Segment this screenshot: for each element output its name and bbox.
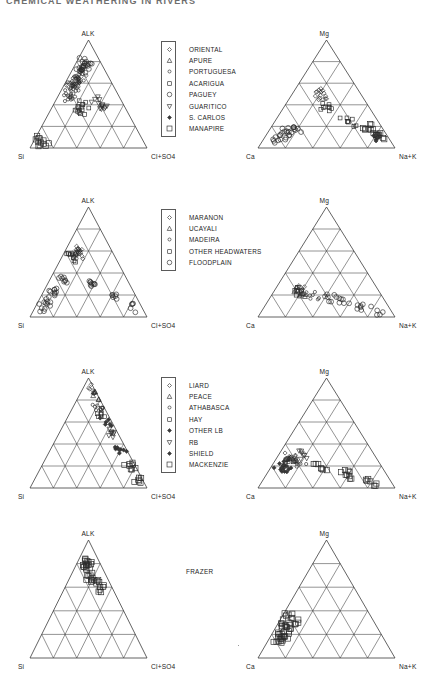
legend-item-label: FLOODPLAIN [189,259,232,266]
legend-item-label: APURE [189,57,212,64]
diamond-small-icon [161,213,178,222]
diamond-filled-icon [161,449,178,458]
figure-page: CHEMICAL WEATHERING IN RIVERS ALKSiCl+SO… [0,0,439,688]
ternary-plot-frazer-cation: MgCaNa+K [242,528,429,674]
apex-label-top: Mg [320,30,330,37]
apex-label-bottom-left: Si [18,153,24,160]
legend-item-label: PAGUEY [189,91,217,98]
legend-item[interactable]: PAGUEY [161,89,236,100]
circle-icon [161,90,178,99]
legend-label-frazer: FRAZER [186,568,213,575]
ternary-plot-orinoco-anion: ALKSiCl+SO4 [14,28,181,164]
apex-label-bottom-left: Ca [246,153,255,160]
legend-item-label: ATHABASCA [189,404,229,411]
diamond-filled-icon [161,426,178,435]
triangle-up-icon [161,224,178,233]
apex-label-bottom-left: Ca [246,663,255,670]
legend-item[interactable]: HAY [161,414,229,425]
legend-item[interactable]: ORIENTAL [161,44,236,55]
apex-label-bottom-right: Na+K [399,153,416,160]
legend-item[interactable]: OTHER HEADWATERS [161,246,262,257]
legend-item[interactable]: PORTUGUESA [161,66,236,77]
legend-item-label: MACKENZIE [189,461,229,468]
legend-item-label: RB [189,439,198,446]
legend-item[interactable]: MARANON [161,212,262,223]
legend-item[interactable]: UCAYALI [161,223,262,234]
ternary-grid [42,62,136,148]
diamond-small-icon [161,45,178,54]
legend-item-label: ORIENTAL [189,46,223,53]
ternary-grid [42,229,136,317]
ternary-outline [30,40,147,148]
legend-item[interactable]: MANAPIRE [161,123,236,134]
square-small-icon [161,247,178,256]
apex-label-bottom-left: Si [18,493,24,500]
apex-label-bottom-right: Na+K [399,322,416,329]
apex-label-top: Mg [320,530,330,537]
legend-item[interactable]: FLOODPLAIN [161,257,262,268]
apex-label-bottom-right: Cl+SO4 [151,663,175,670]
circle-small-icon [161,403,178,412]
apex-label-bottom-left: Si [18,663,24,670]
legend-item[interactable]: MADEIRA [161,234,262,245]
apex-label-top: ALK [82,368,95,375]
legend-item[interactable]: ACARIGUA [161,78,236,89]
legend-item[interactable]: PEACE [161,391,229,402]
legend-item[interactable]: ATHABASCA [161,402,229,413]
apex-label-bottom-right: Cl+SO4 [151,153,175,160]
legend-item-label: MANAPIRE [189,125,224,132]
legend-item-label: OTHER HEADWATERS [189,248,262,255]
apex-label-top: ALK [82,197,95,204]
apex-label-bottom-left: Ca [246,322,255,329]
legend-item[interactable]: GUARITICO [161,100,236,111]
legend-item[interactable]: SHIELD [161,448,229,459]
data-points [292,284,385,318]
legend-item-label: ACARIGUA [189,80,224,87]
square-icon [161,124,178,133]
apex-label-top: Mg [320,197,330,204]
scan-speck [238,645,239,646]
ternary-outline [258,378,395,488]
square-small-icon [161,415,178,424]
ternary-plot-amazon-anion: ALKSiCl+SO4 [14,195,181,333]
ternary-plot-mackenzie-anion: ALKSiCl+SO4 [14,366,181,504]
legend-item[interactable]: S. CARLOS [161,112,236,123]
data-points [37,244,138,315]
legend-item[interactable]: OTHER LB [161,425,229,436]
legend-item-label: GUARITICO [189,103,227,110]
triangle-down-icon [161,438,178,447]
apex-label-bottom-left: Ca [246,493,255,500]
apex-label-top: ALK [82,530,95,537]
data-points [33,55,109,148]
legend-item[interactable]: LIARD [161,380,229,391]
data-points [272,449,379,489]
legend-item-label: LIARD [189,382,209,389]
apex-label-top: Mg [320,368,330,375]
circle-small-icon [161,235,178,244]
legend-item-label: SHIELD [189,450,214,457]
legend-item-label: MADEIRA [189,236,220,243]
legend-item-label: UCAYALI [189,225,217,232]
data-points [81,556,107,595]
circle-icon [161,258,178,267]
ternary-grid [272,400,382,488]
ternary-plot-amazon-cation: MgCaNa+K [242,195,429,333]
legend-item[interactable]: MACKENZIE [161,459,229,470]
legend-item-label: MARANON [189,214,223,221]
running-header: CHEMICAL WEATHERING IN RIVERS [6,0,226,6]
ternary-plot-frazer-anion: ALKSiCl+SO4 [14,528,181,674]
legend-item[interactable]: APURE [161,55,236,66]
apex-label-bottom-right: Na+K [399,493,416,500]
diamond-filled-icon [161,113,178,122]
ternary-outline [30,207,147,317]
apex-label-top: ALK [82,30,95,37]
legend-item[interactable]: RB [161,436,229,447]
ternary-plot-orinoco-cation: MgCaNa+K [242,28,429,164]
apex-label-bottom-left: Si [18,322,24,329]
ternary-grid [272,564,382,658]
apex-label-bottom-right: Cl+SO4 [151,322,175,329]
square-small-icon [161,79,178,88]
data-points [271,87,387,146]
legend-item-label: S. CARLOS [189,114,225,121]
ternary-plot-mackenzie-cation: MgCaNa+K [242,366,429,504]
